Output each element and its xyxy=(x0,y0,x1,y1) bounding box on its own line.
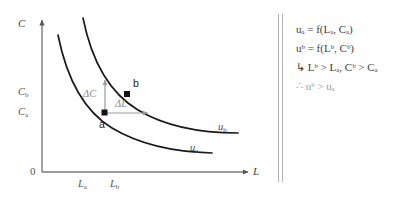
y-tick-label-ca: Ca xyxy=(18,107,28,118)
equation-line-ub: uᵇ = f(Lᵇ, Cᵇ) xyxy=(296,43,414,54)
point-label-b: b xyxy=(133,78,139,89)
x-tick-lb-sub: b xyxy=(116,183,120,191)
equation-line-conclusion: ∴ uᵇ > uₐ xyxy=(296,81,414,92)
point-marker-b xyxy=(124,91,130,97)
x-tick-la-sub: a xyxy=(84,183,87,191)
x-tick-label-la: La xyxy=(78,179,87,190)
origin-label: 0 xyxy=(30,166,36,177)
divider-line-2 xyxy=(282,14,283,182)
curve-ub-sub: b xyxy=(223,126,227,134)
curve-label-ua: ua xyxy=(190,143,198,154)
delta-c-label: ΔC xyxy=(83,89,96,100)
y-tick-ca-base: C xyxy=(18,106,25,117)
point-label-a: a xyxy=(99,119,105,130)
equation-panel: uₐ = f(Lₐ, Cₐ) uᵇ = f(Lᵇ, Cᵇ) ↳ Lᵇ > Lₐ,… xyxy=(296,24,414,100)
x-tick-lb-base: L xyxy=(110,178,116,189)
graph-panel: C L 0 Cb Ca La Lb a b ub ua ΔC ΔL xyxy=(0,0,265,202)
indifference-curve-figure: C L 0 Cb Ca La Lb a b ub ua ΔC ΔL xyxy=(0,0,415,202)
y-tick-label-cb: Cb xyxy=(18,87,29,98)
equation-line-ua: uₐ = f(Lₐ, Cₐ) xyxy=(296,24,414,35)
delta-l-label: ΔL xyxy=(115,99,127,110)
y-tick-cb-sub: b xyxy=(25,91,29,99)
curve-ua-sub: a xyxy=(195,147,198,155)
x-axis-label: L xyxy=(253,166,259,177)
curve-ub xyxy=(83,18,238,133)
x-tick-la-base: L xyxy=(78,178,84,189)
panel-divider xyxy=(278,14,284,182)
x-tick-label-lb: Lb xyxy=(110,179,119,190)
curve-label-ub: ub xyxy=(218,122,227,133)
equation-line-inequalities: ↳ Lᵇ > Lₐ, Cᵇ > Cₐ xyxy=(296,62,414,73)
y-axis-label: C xyxy=(18,18,25,29)
curve-ua xyxy=(58,35,212,153)
y-tick-cb-base: C xyxy=(18,86,25,97)
y-tick-ca-sub: a xyxy=(25,111,28,119)
graph-canvas xyxy=(0,0,265,202)
divider-line-1 xyxy=(278,14,279,182)
point-marker-a xyxy=(102,110,108,116)
